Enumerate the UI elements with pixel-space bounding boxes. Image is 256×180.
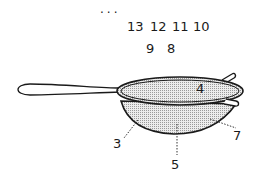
callout-7: 7 xyxy=(233,129,241,142)
callout-5: 5 xyxy=(171,158,179,171)
handle xyxy=(18,84,120,95)
strainer-illustration xyxy=(0,0,256,180)
rim xyxy=(117,77,243,105)
callout-3: 3 xyxy=(113,137,121,150)
callout-4: 4 xyxy=(196,82,204,95)
bowl-mesh xyxy=(121,101,236,134)
